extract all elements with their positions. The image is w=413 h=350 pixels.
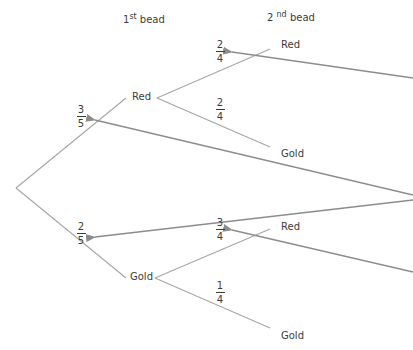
prob-first-red: 35	[76, 104, 86, 129]
branch-root-gold	[16, 188, 126, 278]
prob-red-red: 24	[215, 39, 225, 64]
branch-root-red	[16, 98, 126, 188]
arrow-to-3-4	[232, 230, 413, 272]
label-red-gold: Gold	[281, 148, 304, 160]
tree-diagram	[0, 0, 413, 350]
prob-gold-red: 34	[215, 217, 225, 242]
branch-red-red	[157, 49, 270, 98]
branch-gold-red	[155, 229, 270, 278]
branch-red-gold	[157, 98, 270, 147]
label-first-red: Red	[132, 91, 151, 103]
prob-red-gold: 24	[215, 97, 225, 122]
label-gold-gold: Gold	[281, 330, 304, 342]
header-second-bead: 2 nd bead	[267, 10, 315, 23]
prob-gold-gold: 14	[215, 280, 225, 305]
arrow-to-2-4-red	[232, 52, 413, 78]
prob-first-gold: 25	[76, 221, 86, 246]
label-first-gold: Gold	[130, 271, 153, 283]
header-first-bead: 1st bead	[123, 12, 165, 25]
label-red-red: Red	[281, 39, 300, 51]
arrow-to-3-5	[95, 120, 413, 195]
branch-gold-gold	[155, 278, 270, 328]
arrow-to-2-5	[95, 200, 413, 237]
label-gold-red: Red	[281, 221, 300, 233]
